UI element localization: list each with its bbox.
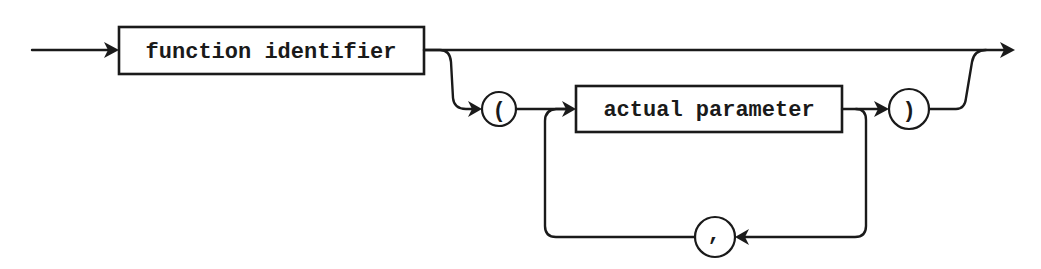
actual-parameter-label: actual parameter [603,98,814,123]
comma-terminal: , [695,217,735,257]
branch-to-params-line [424,50,474,109]
open-paren-label: ( [492,99,505,124]
open-paren-terminal: ( [482,92,516,126]
rejoin-line [929,50,986,109]
close-paren-label: ) [902,99,915,124]
syntax-diagram: function identifier ( actual parameter )… [0,0,1041,269]
actual-parameter-box: actual parameter [576,86,842,132]
function-identifier-box: function identifier [119,27,424,74]
function-identifier-label: function identifier [146,40,397,65]
comma-label: , [707,222,720,247]
close-paren-terminal: ) [889,89,929,129]
